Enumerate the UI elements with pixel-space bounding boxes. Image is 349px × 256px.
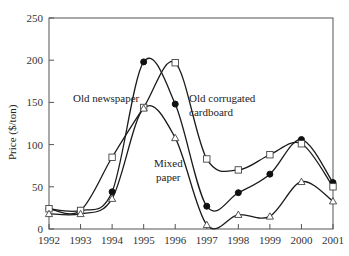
x-tick-label: 1996 xyxy=(164,234,187,246)
x-tick-label: 1997 xyxy=(196,234,219,246)
marker-square xyxy=(298,141,304,147)
plot-frame xyxy=(49,18,333,229)
marker-circle xyxy=(204,203,210,209)
series-lines xyxy=(49,58,333,229)
marker-square xyxy=(172,60,178,66)
y-tick-label: 200 xyxy=(27,54,44,66)
marker-circle xyxy=(141,59,147,65)
marker-circle xyxy=(235,190,241,196)
x-tick-label: 1995 xyxy=(133,234,156,246)
y-tick-label: 50 xyxy=(32,181,44,193)
x-tick-label: 1993 xyxy=(70,234,93,246)
x-tick-label: 1998 xyxy=(227,234,250,246)
annotation-mixed: Mixed xyxy=(154,157,183,169)
marker-triangle xyxy=(203,221,210,227)
line-old-newspaper xyxy=(49,58,333,211)
marker-circle xyxy=(267,171,273,177)
x-tick-label: 1999 xyxy=(259,234,282,246)
y-tick-label: 150 xyxy=(27,96,44,108)
x-tick-label: 2001 xyxy=(322,234,344,246)
annotation-old-newspaper: Old newspaper xyxy=(73,92,140,104)
annotation-old-corrugated: Old corrugated xyxy=(189,92,256,104)
x-tick-label: 1992 xyxy=(38,234,60,246)
marker-square xyxy=(235,167,241,173)
x-tick-label: 1994 xyxy=(101,234,124,246)
annotation-paper: paper xyxy=(156,171,181,183)
marker-square xyxy=(267,152,273,158)
y-tick-label: 100 xyxy=(27,139,44,151)
axes xyxy=(49,18,333,229)
marker-circle xyxy=(109,189,115,195)
marker-square xyxy=(204,156,210,162)
marker-square xyxy=(109,154,115,160)
marker-triangle xyxy=(172,134,179,140)
price-chart: 0501001502002501992199319941995199619971… xyxy=(0,0,349,256)
marker-circle xyxy=(172,101,178,107)
annotation-cardboard: cardboard xyxy=(189,106,233,118)
y-tick-label: 250 xyxy=(27,12,44,24)
marker-square xyxy=(330,184,336,190)
x-tick-label: 2000 xyxy=(290,234,313,246)
y-axis-label: Price ($/ton) xyxy=(6,104,19,160)
